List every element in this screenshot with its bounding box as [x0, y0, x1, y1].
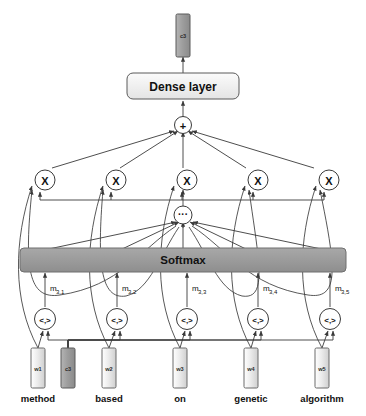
distribute-node[interactable]: ··· — [174, 206, 192, 224]
context-vector-box: c3 — [61, 348, 75, 388]
attention-score-sub: 3,3 — [198, 289, 207, 295]
word-vector-label: w4 — [246, 366, 255, 372]
inner-product-node-2[interactable]: <,> — [107, 309, 128, 330]
inner-product-node-5[interactable]: <,> — [320, 309, 341, 330]
multiply-node-5[interactable]: X — [319, 170, 339, 190]
word-label: algorithm — [300, 393, 343, 404]
word-column-5: w5 algorithm — [300, 348, 343, 404]
weight-bus-edges — [40, 192, 324, 200]
context-vector-label: c3 — [65, 366, 71, 372]
word-vector-label: w3 — [175, 366, 183, 372]
softmax-to-distribute-edges — [44, 222, 326, 250]
dense-layer-node[interactable]: Dense layer — [127, 73, 239, 99]
output-vector-box: c3 — [176, 14, 190, 57]
word-column-1: w1 method — [21, 348, 56, 404]
sum-node-label: + — [180, 120, 186, 132]
word-column-2: w2 based — [95, 348, 123, 404]
output-vector-label: c3 — [180, 33, 186, 39]
word-label: genetic — [234, 393, 267, 404]
context-bus-edges — [48, 331, 333, 348]
distribute-node-label: ··· — [178, 209, 188, 220]
multiply-node-label: X — [41, 175, 49, 187]
attention-score-sub: 3,5 — [341, 289, 350, 295]
inner-product-label: <,> — [39, 316, 51, 325]
word-column-4: w4 genetic — [234, 348, 267, 404]
word-vector-label: w5 — [317, 366, 325, 372]
multiply-node-3[interactable]: X — [177, 170, 197, 190]
word-column-3: w3 on — [173, 348, 187, 404]
inner-product-label: <,> — [181, 316, 193, 325]
multiply-node-label: X — [254, 175, 262, 187]
word-label: based — [95, 393, 123, 404]
multiply-node-1[interactable]: X — [35, 170, 55, 190]
multiply-to-sum-edges — [52, 131, 314, 168]
multiply-node-label: X — [112, 175, 120, 187]
inner-product-label: <,> — [324, 316, 336, 325]
attention-score-sub: 3,4 — [269, 289, 278, 295]
sum-node[interactable]: + — [175, 117, 192, 134]
word-vector-label: w1 — [33, 366, 41, 372]
attention-score-sub: 3,1 — [56, 289, 65, 295]
inner-product-label: <,> — [111, 316, 123, 325]
inner-product-label: <,> — [252, 316, 264, 325]
inner-product-node-1[interactable]: <,> — [35, 309, 56, 330]
word-vector-label: w2 — [104, 366, 112, 372]
multiply-node-2[interactable]: X — [106, 170, 126, 190]
diagram-svg: c3 Dense layer + X X X X — [0, 0, 366, 416]
word-label: on — [174, 393, 186, 404]
multiply-node-label: X — [325, 175, 333, 187]
dense-layer-label: Dense layer — [149, 80, 217, 94]
softmax-label: Softmax — [160, 254, 206, 266]
multiply-node-label: X — [183, 175, 191, 187]
inner-product-node-3[interactable]: <,> — [177, 309, 198, 330]
softmax-bar[interactable]: Softmax — [20, 248, 346, 272]
wordvector-to-innerproduct-edges — [38, 331, 328, 348]
diagram-canvas: c3 Dense layer + X X X X — [0, 0, 366, 416]
attention-score-sub: 3,2 — [128, 289, 137, 295]
inner-product-node-4[interactable]: <,> — [248, 309, 269, 330]
word-label: method — [21, 393, 56, 404]
multiply-node-4[interactable]: X — [248, 170, 268, 190]
